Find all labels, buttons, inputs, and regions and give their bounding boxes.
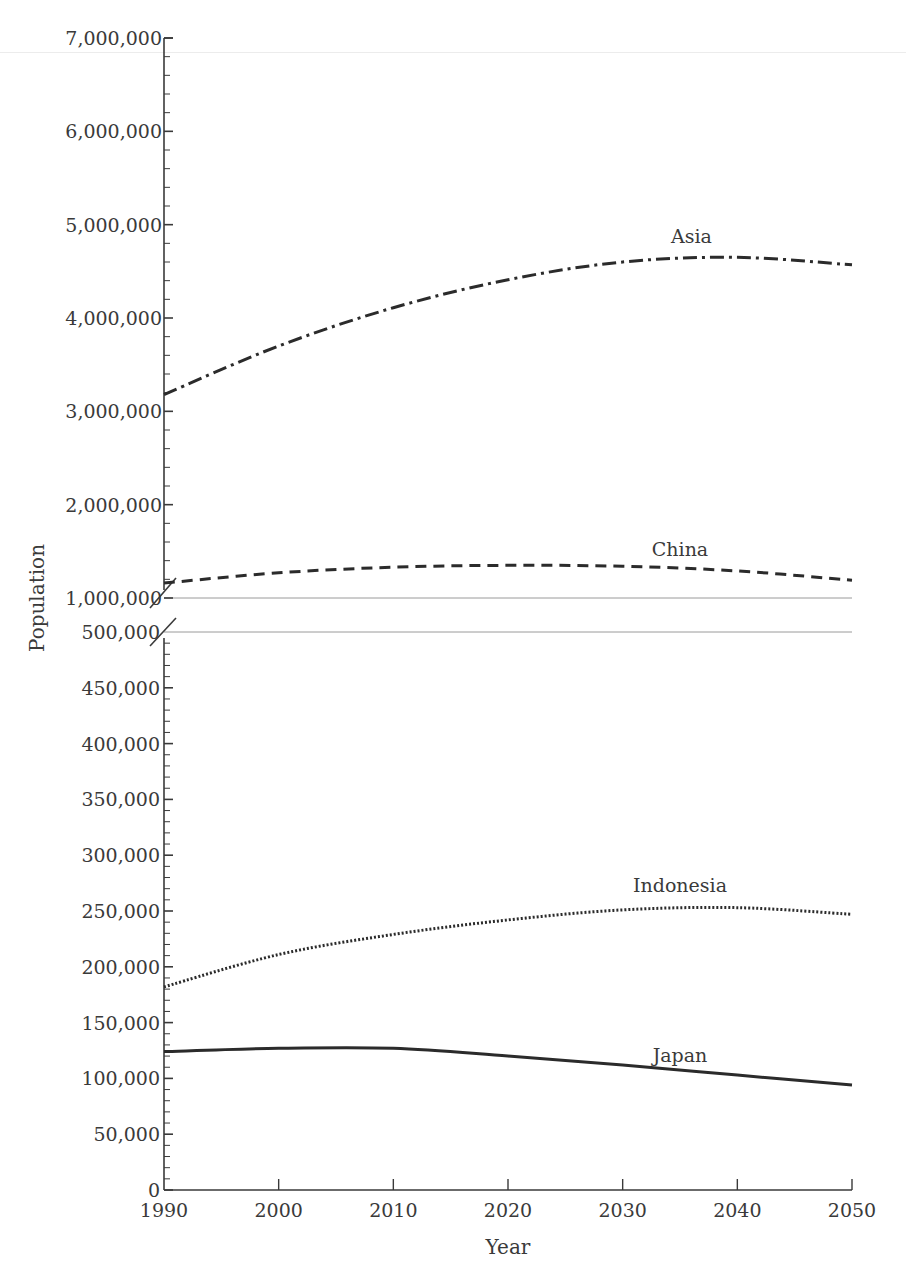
y-tick-label: 300,000 — [81, 844, 160, 866]
series-label-china: China — [652, 538, 708, 560]
series-line-indonesia — [164, 907, 852, 986]
y-tick-label: 150,000 — [81, 1012, 160, 1034]
x-axis-title: Year — [485, 1235, 531, 1259]
series-labels: AsiaChinaIndonesiaJapan — [633, 225, 727, 1065]
y-axis-title: Population — [25, 544, 49, 652]
y-tick-label: 450,000 — [81, 677, 160, 699]
axes — [150, 38, 852, 1190]
y-tick-label: 50,000 — [94, 1123, 160, 1145]
series-line-asia — [164, 257, 852, 394]
x-tick-label: 2030 — [598, 1199, 646, 1221]
series-label-asia: Asia — [670, 225, 712, 247]
series-label-japan: Japan — [651, 1044, 708, 1066]
x-tick-label: 1990 — [140, 1199, 188, 1221]
y-tick-label: 250,000 — [81, 900, 160, 922]
x-tick-label: 2010 — [369, 1199, 417, 1221]
y-tick-label: 1,000,000 — [65, 587, 162, 609]
y-tick-label: 5,000,000 — [65, 214, 162, 236]
x-tick-label: 2020 — [484, 1199, 532, 1221]
y-tick-label: 500,000 — [81, 621, 160, 643]
y-tick-label: 4,000,000 — [65, 307, 162, 329]
y-tick-label: 0 — [148, 1179, 160, 1201]
y-tick-label: 3,000,000 — [65, 400, 162, 422]
axis-break-lines — [164, 598, 852, 632]
series-label-indonesia: Indonesia — [633, 874, 727, 896]
population-chart: 1,000,0002,000,0003,000,0004,000,0005,00… — [0, 0, 906, 1269]
y-tick-label: 2,000,000 — [65, 494, 162, 516]
axis-ticks: 1,000,0002,000,0003,000,0004,000,0005,00… — [65, 27, 876, 1221]
y-tick-label: 200,000 — [81, 956, 160, 978]
x-tick-label: 2000 — [254, 1199, 302, 1221]
y-tick-label: 100,000 — [81, 1067, 160, 1089]
x-tick-label: 2040 — [713, 1199, 761, 1221]
x-tick-label: 2050 — [828, 1199, 876, 1221]
data-series — [164, 257, 852, 1085]
series-line-japan — [164, 1048, 852, 1086]
y-tick-label: 350,000 — [81, 788, 160, 810]
y-tick-label: 400,000 — [81, 733, 160, 755]
y-tick-label: 6,000,000 — [65, 120, 162, 142]
y-tick-label: 7,000,000 — [65, 27, 162, 49]
series-line-china — [164, 565, 852, 583]
